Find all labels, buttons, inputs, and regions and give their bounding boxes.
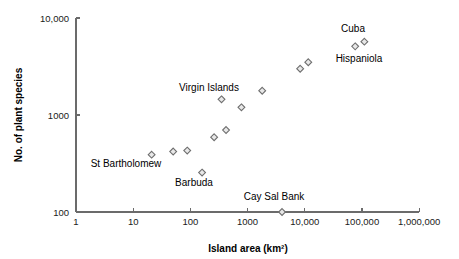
data-point-marker xyxy=(218,96,225,103)
y-tick-label: 10,000 xyxy=(40,13,69,24)
data-point-marker xyxy=(259,87,266,94)
plot-area: 110100100010,000100,0001,000,00010010001… xyxy=(0,0,459,259)
axis-tick-labels: 110100100010,000100,0001,000,00010010001… xyxy=(40,13,440,228)
data-point-marker xyxy=(352,43,359,50)
data-point-marker xyxy=(184,147,191,154)
data-point-label: Cay Sal Bank xyxy=(244,191,306,202)
y-axis-title: No. of plant species xyxy=(13,67,24,162)
data-point-marker xyxy=(199,169,206,176)
data-point-marker xyxy=(238,104,245,111)
data-point-marker xyxy=(279,209,286,216)
data-point-label: Hispaniola xyxy=(336,53,383,64)
data-point-marker xyxy=(361,38,368,45)
axes xyxy=(76,18,419,212)
data-point-marker xyxy=(211,134,218,141)
data-point-label: Cuba xyxy=(341,23,365,34)
data-point-label: St Bartholomew xyxy=(91,158,162,169)
x-axis-title: Island area (km²) xyxy=(208,243,287,254)
data-point-marker xyxy=(305,59,312,66)
x-tick-label: 1 xyxy=(73,216,78,227)
y-tick-label: 100 xyxy=(53,207,69,218)
point-labels: CubaHispaniolaVirgin IslandsSt Bartholom… xyxy=(91,23,383,202)
data-point-marker xyxy=(297,65,304,72)
scatter-chart-figure: 110100100010,000100,0001,000,00010010001… xyxy=(0,0,459,259)
data-point-marker xyxy=(170,148,177,155)
y-tick-label: 1000 xyxy=(48,110,69,121)
x-tick-label: 100 xyxy=(182,216,198,227)
axis-ticks xyxy=(76,18,419,212)
data-point-marker xyxy=(223,127,230,134)
data-points xyxy=(148,38,368,215)
data-point-label: Virgin Islands xyxy=(179,82,239,93)
data-point-label: Barbuda xyxy=(175,177,213,188)
x-tick-label: 1000 xyxy=(237,216,258,227)
x-tick-label: 10,000 xyxy=(290,216,319,227)
x-tick-label: 100,000 xyxy=(345,216,379,227)
x-tick-label: 10 xyxy=(128,216,139,227)
x-tick-label: 1,000,000 xyxy=(398,216,440,227)
